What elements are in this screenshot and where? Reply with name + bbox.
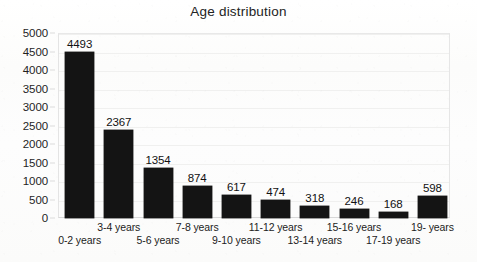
x-axis-tick-label: 11-12 years	[249, 221, 303, 233]
bar-group[interactable]: 4493	[65, 33, 94, 218]
bar-value-label: 874	[188, 172, 207, 184]
bar[interactable]	[65, 52, 94, 218]
y-axis-tick-mark	[50, 88, 55, 89]
bar[interactable]	[418, 196, 447, 218]
bar-value-label: 4493	[67, 38, 92, 50]
bar-group[interactable]: 2367	[104, 33, 133, 218]
bar[interactable]	[300, 206, 329, 218]
x-axis-tick-label: 3-4 years	[97, 221, 140, 233]
y-axis-tick-mark	[50, 107, 55, 108]
bar-group[interactable]: 1354	[144, 33, 173, 218]
x-axis-tick-label: 15-16 years	[327, 221, 381, 233]
chart-title: Age distribution	[0, 4, 477, 19]
age-distribution-bar-chart: Age distribution 50004500400035003000250…	[0, 0, 477, 262]
y-axis-tick-label: 1000	[23, 175, 48, 187]
bar-value-label: 2367	[106, 116, 131, 128]
y-axis-tick-label: 0	[42, 212, 48, 224]
bar[interactable]	[340, 209, 369, 218]
y-axis-tick-label: 4500	[23, 46, 48, 58]
bar-group[interactable]: 246	[340, 33, 369, 218]
y-axis-tick-mark	[50, 70, 55, 71]
x-axis-tick-label: 7-8 years	[176, 221, 219, 233]
bar-group[interactable]: 874	[183, 33, 212, 218]
bars-layer: 449323671354874617474318246168598	[58, 33, 450, 218]
bar-value-label: 617	[227, 181, 246, 193]
bar-value-label: 474	[266, 186, 285, 198]
y-axis-tick-label: 4000	[23, 64, 48, 76]
x-axis-tick-label: 19- years	[411, 221, 454, 233]
y-axis-tick-mark	[50, 181, 55, 182]
x-axis-tick-label: 13-14 years	[288, 234, 342, 246]
bar-group[interactable]: 318	[300, 33, 329, 218]
y-axis-tick-mark	[50, 218, 55, 219]
bar[interactable]	[261, 200, 290, 218]
bar-value-label: 1354	[145, 154, 170, 166]
x-axis-tick-label: 0-2 years	[58, 234, 101, 246]
bar-group[interactable]: 617	[222, 33, 251, 218]
y-axis-tick-mark	[50, 33, 55, 34]
y-axis-tick-label: 3500	[23, 83, 48, 95]
x-axis-tick-label: 5-6 years	[137, 234, 180, 246]
bar-value-label: 168	[384, 198, 403, 210]
bar[interactable]	[379, 212, 408, 218]
y-axis: 5000450040003500300025002000150010005000	[0, 33, 56, 219]
bar-group[interactable]: 168	[379, 33, 408, 218]
bar-group[interactable]: 474	[261, 33, 290, 218]
y-axis-tick-label: 2500	[23, 120, 48, 132]
y-axis-tick-label: 3000	[23, 101, 48, 113]
x-axis-tick-label: 9-10 years	[212, 234, 261, 246]
y-axis-tick-label: 500	[29, 194, 48, 206]
x-axis-labels: 0-2 years3-4 years5-6 years7-8 years9-10…	[58, 220, 450, 260]
y-axis-tick-label: 1500	[23, 157, 48, 169]
y-axis-tick-mark	[50, 199, 55, 200]
bar[interactable]	[144, 168, 173, 218]
bar-group[interactable]: 598	[418, 33, 447, 218]
bar[interactable]	[104, 130, 133, 218]
y-axis-tick-mark	[50, 51, 55, 52]
bar[interactable]	[222, 195, 251, 218]
y-axis-tick-mark	[50, 125, 55, 126]
y-axis-tick-label: 2000	[23, 138, 48, 150]
bar[interactable]	[183, 186, 212, 218]
y-axis-tick-mark	[50, 144, 55, 145]
y-axis-tick-mark	[50, 162, 55, 163]
x-axis-tick-label: 17-19 years	[366, 234, 420, 246]
bar-value-label: 246	[345, 195, 364, 207]
y-axis-tick-label: 5000	[23, 27, 48, 39]
bar-value-label: 598	[423, 182, 442, 194]
bar-value-label: 318	[305, 192, 324, 204]
